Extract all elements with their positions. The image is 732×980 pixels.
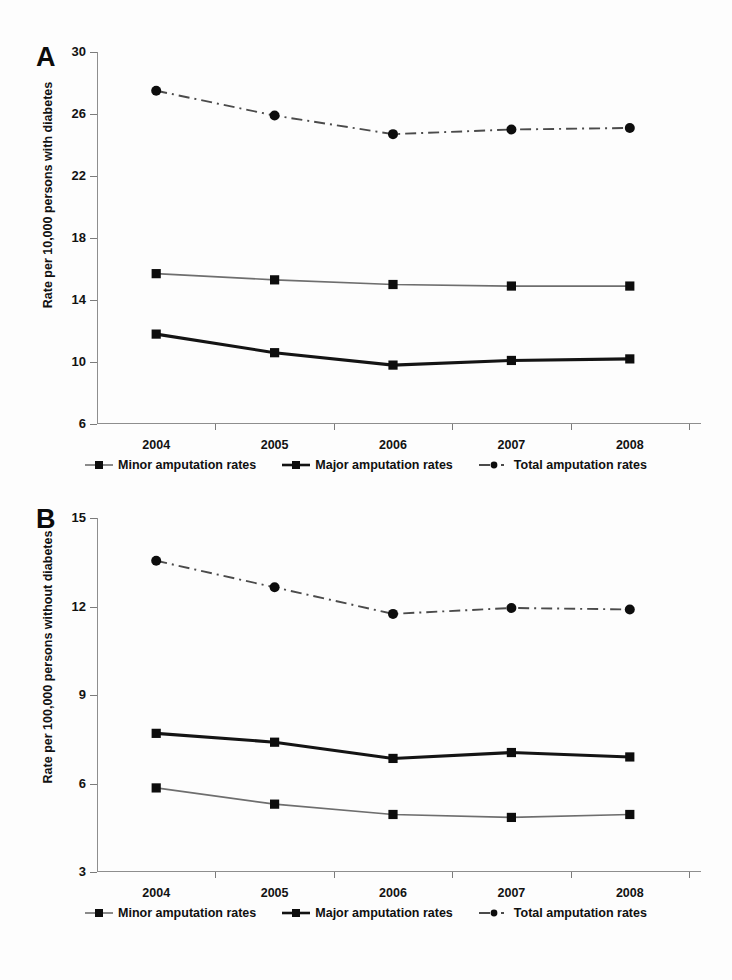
legend-item-minor: Minor amputation rates bbox=[85, 458, 256, 472]
data-point-marker bbox=[507, 281, 516, 290]
panel-b-y-tick-label: 9 bbox=[79, 687, 86, 702]
panel-a-y-tick-label: 10 bbox=[72, 354, 86, 369]
legend-label-major: Major amputation rates bbox=[315, 906, 453, 920]
panel-a-x-tick bbox=[571, 424, 572, 430]
panel-b-y-tick-label: 6 bbox=[79, 776, 86, 791]
legend-item-minor: Minor amputation rates bbox=[85, 906, 256, 920]
data-point-marker bbox=[388, 280, 397, 289]
data-point-marker bbox=[152, 729, 161, 738]
panel-b-x-tick bbox=[334, 872, 335, 878]
panel-a-y-tick-label: 6 bbox=[79, 416, 86, 431]
data-point-marker bbox=[388, 361, 397, 370]
panel-b-series-layer bbox=[97, 518, 689, 872]
panel-a-x-tick-label: 2006 bbox=[338, 438, 448, 452]
data-point-marker bbox=[507, 813, 516, 822]
data-point-marker bbox=[388, 754, 397, 763]
data-point-marker bbox=[625, 604, 635, 614]
legend-item-major: Major amputation rates bbox=[282, 906, 453, 920]
panel-a-x-tick bbox=[689, 424, 690, 430]
square-marker-thick-line-icon bbox=[282, 907, 310, 919]
panel-b-y-tick: 15 bbox=[90, 518, 97, 519]
legend-label-total: Total amputation rates bbox=[514, 906, 647, 920]
data-point-marker bbox=[270, 348, 279, 357]
data-point-marker bbox=[506, 125, 516, 135]
panel-a-y-axis-label: Rate per 10,000 persons with diabetes bbox=[41, 15, 55, 375]
square-marker-thin-line-icon bbox=[85, 907, 113, 919]
data-point-marker bbox=[270, 582, 280, 592]
panel-b: B Rate per 100,000 persons without diabe… bbox=[0, 488, 732, 958]
panel-a-x-tick-label: 2005 bbox=[220, 438, 330, 452]
panel-b-x-tick-label: 2004 bbox=[101, 886, 211, 900]
circle-marker-dashdot-line-icon bbox=[479, 459, 509, 471]
panel-b-plot-area: 15 12 9 6 3 2004 2005 2006 2007 2008 bbox=[97, 518, 689, 872]
panel-a-x-tick-label: 2007 bbox=[456, 438, 566, 452]
panel-b-y-tick: 9 bbox=[90, 695, 97, 696]
data-point-marker bbox=[151, 556, 161, 566]
panel-a-y-tick: 10 bbox=[90, 362, 97, 363]
panel-b-y-tick-label: 12 bbox=[72, 599, 86, 614]
panel-b-x-tick-label: 2005 bbox=[220, 886, 330, 900]
legend-label-minor: Minor amputation rates bbox=[118, 458, 256, 472]
panel-a-y-tick-label: 30 bbox=[72, 44, 86, 59]
data-point-marker bbox=[388, 609, 398, 619]
data-point-marker bbox=[270, 800, 279, 809]
panel-b-y-axis-label: Rate per 100,000 persons without diabete… bbox=[41, 477, 55, 837]
panel-b-x-tick-label: 2007 bbox=[456, 886, 566, 900]
panel-b-x-tick bbox=[689, 872, 690, 878]
panel-b-x-tick-label: 2006 bbox=[338, 886, 448, 900]
data-point-marker bbox=[625, 810, 634, 819]
data-point-marker bbox=[151, 86, 161, 96]
panel-a-y-tick: 22 bbox=[90, 176, 97, 177]
panel-a-x-tick bbox=[452, 424, 453, 430]
panel-a-legend: Minor amputation rates Major amputation … bbox=[0, 458, 732, 472]
data-point-marker bbox=[625, 123, 635, 133]
data-point-marker bbox=[625, 354, 634, 363]
panel-a: A Rate per 10,000 persons with diabetes … bbox=[0, 18, 732, 488]
panel-a-x-tick bbox=[334, 424, 335, 430]
data-point-marker bbox=[270, 275, 279, 284]
amputation-rates-figure: A Rate per 10,000 persons with diabetes … bbox=[0, 0, 732, 980]
panel-b-x-tick-label: 2008 bbox=[575, 886, 685, 900]
panel-b-x-tick bbox=[571, 872, 572, 878]
panel-a-plot-area: 30 26 22 18 14 10 6 bbox=[97, 52, 689, 424]
panel-a-y-tick: 18 bbox=[90, 238, 97, 239]
panel-a-x-tick bbox=[215, 424, 216, 430]
panel-b-x-tick bbox=[215, 872, 216, 878]
panel-b-y-tick: 6 bbox=[90, 784, 97, 785]
panel-a-y-tick: 30 bbox=[90, 52, 97, 53]
series-line-total bbox=[156, 561, 630, 614]
panel-a-y-tick-label: 18 bbox=[72, 230, 86, 245]
data-point-marker bbox=[507, 748, 516, 757]
panel-a-y-tick-label: 26 bbox=[72, 106, 86, 121]
panel-a-y-tick: 14 bbox=[90, 300, 97, 301]
square-marker-thin-line-icon bbox=[85, 459, 113, 471]
data-point-marker bbox=[625, 752, 634, 761]
data-point-marker bbox=[270, 738, 279, 747]
data-point-marker bbox=[152, 783, 161, 792]
series-line-total bbox=[156, 91, 630, 134]
legend-label-major: Major amputation rates bbox=[315, 458, 453, 472]
legend-item-total: Total amputation rates bbox=[479, 458, 647, 472]
data-point-marker bbox=[506, 603, 516, 613]
legend-item-major: Major amputation rates bbox=[282, 458, 453, 472]
data-point-marker bbox=[507, 356, 516, 365]
panel-b-x-tick bbox=[452, 872, 453, 878]
data-point-marker bbox=[152, 269, 161, 278]
legend-label-total: Total amputation rates bbox=[514, 458, 647, 472]
panel-a-y-tick: 26 bbox=[90, 114, 97, 115]
panel-b-y-tick-label: 15 bbox=[72, 510, 86, 525]
panel-a-x-tick-label: 2004 bbox=[101, 438, 211, 452]
data-point-marker bbox=[152, 330, 161, 339]
panel-b-legend: Minor amputation rates Major amputation … bbox=[0, 906, 732, 920]
data-point-marker bbox=[388, 129, 398, 139]
panel-a-y-tick-label: 14 bbox=[72, 292, 86, 307]
square-marker-thick-line-icon bbox=[282, 459, 310, 471]
panel-a-y-tick: 6 bbox=[90, 424, 97, 425]
panel-a-y-tick-label: 22 bbox=[72, 168, 86, 183]
panel-a-x-tick-label: 2008 bbox=[575, 438, 685, 452]
data-point-marker bbox=[625, 281, 634, 290]
legend-item-total: Total amputation rates bbox=[479, 906, 647, 920]
panel-b-y-tick: 12 bbox=[90, 607, 97, 608]
panel-b-y-tick-label: 3 bbox=[79, 864, 86, 879]
series-line-major bbox=[156, 334, 630, 365]
